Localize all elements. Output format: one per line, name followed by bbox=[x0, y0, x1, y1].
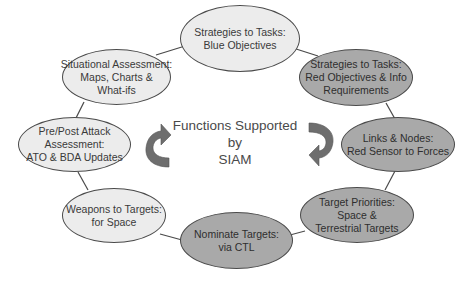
node-text: via CTL bbox=[218, 241, 254, 254]
connector-situational-to-blue bbox=[156, 46, 185, 55]
node-text: What-ifs bbox=[97, 84, 136, 97]
node-text: Red Sensor to Forces bbox=[347, 145, 449, 158]
center-title: Functions Supported by SIAM bbox=[170, 117, 300, 168]
node-text: Requirements bbox=[323, 84, 388, 97]
node-text: Links & Nodes: bbox=[363, 132, 434, 145]
node-nominate-targets: Nominate Targets: via CTL bbox=[180, 212, 293, 269]
center-title-line: by bbox=[170, 134, 300, 151]
node-text: Situational Assessment: bbox=[61, 58, 172, 71]
node-text: Pre/Post Attack bbox=[39, 125, 111, 138]
node-text: for Space bbox=[92, 216, 137, 229]
node-text: Strategies to Tasks: bbox=[194, 26, 285, 39]
node-links-nodes: Links & Nodes: Red Sensor to Forces bbox=[341, 117, 455, 172]
node-text: Assessment: bbox=[44, 138, 104, 151]
node-target-priorities: Target Priorities: Space & Terrestrial T… bbox=[300, 187, 414, 243]
node-blue-objectives: Strategies to Tasks: Blue Objectives bbox=[180, 5, 300, 72]
node-pre-post-attack: Pre/Post Attack Assessment: ATO & BDA Up… bbox=[18, 117, 131, 172]
connector-weapons-to-prepost bbox=[78, 172, 88, 190]
node-text: Weapons to Targets: bbox=[66, 203, 162, 216]
node-text: Target Priorities: bbox=[319, 196, 395, 209]
node-text: Maps, Charts & bbox=[80, 71, 152, 84]
node-red-objectives: Strategies to Tasks: Red Objectives & In… bbox=[299, 49, 413, 106]
node-situational-assessment: Situational Assessment: Maps, Charts & W… bbox=[62, 49, 171, 105]
center-title-line: SIAM bbox=[170, 151, 300, 168]
node-text: Nominate Targets: bbox=[194, 228, 279, 241]
node-text: Terrestrial Targets bbox=[315, 222, 398, 235]
node-text: Space & bbox=[337, 209, 377, 222]
node-weapons-to-targets: Weapons to Targets: for Space bbox=[62, 188, 166, 243]
connector-prepost-to-situational bbox=[76, 102, 84, 118]
node-text: Red Objectives & Info bbox=[305, 71, 407, 84]
node-text: Strategies to Tasks: bbox=[310, 58, 401, 71]
connector-nominate-to-weapons bbox=[160, 234, 182, 240]
curved-arrow-down-icon bbox=[305, 121, 337, 169]
curved-arrow-up-icon bbox=[143, 121, 175, 169]
connector-priorities-to-nominate bbox=[290, 231, 305, 235]
center-title-line: Functions Supported bbox=[170, 117, 300, 134]
node-text: ATO & BDA Updates bbox=[26, 151, 123, 164]
node-text: Blue Objectives bbox=[204, 39, 277, 52]
connector-links-to-priorities bbox=[385, 171, 395, 190]
